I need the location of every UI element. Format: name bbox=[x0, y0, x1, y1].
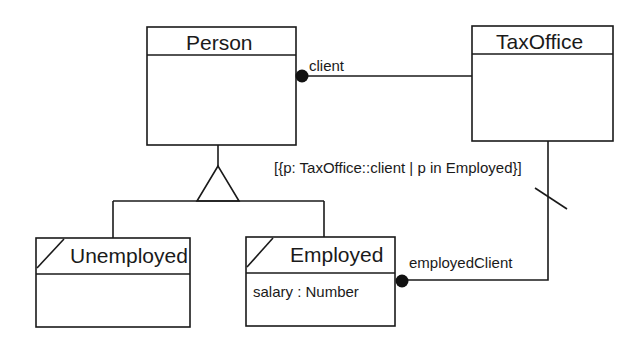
unemployed-class-name: Unemployed bbox=[70, 245, 188, 266]
employed-class-name: Employed bbox=[290, 244, 383, 265]
client-end-dot-icon bbox=[296, 70, 309, 83]
derived-association-slash-icon bbox=[535, 188, 567, 209]
taxoffice-class-name: TaxOffice bbox=[496, 31, 583, 52]
employed-client-role-label: employedClient bbox=[409, 255, 512, 270]
person-class-name: Person bbox=[186, 32, 253, 53]
client-role-label: client bbox=[309, 58, 344, 73]
association-constraint: [{p: TaxOffice::client | p in Employed}] bbox=[274, 160, 522, 175]
generalization-triangle-icon bbox=[197, 166, 239, 201]
employed-salary-attribute: salary : Number bbox=[253, 284, 359, 299]
employed-client-end-dot-icon bbox=[396, 275, 409, 288]
